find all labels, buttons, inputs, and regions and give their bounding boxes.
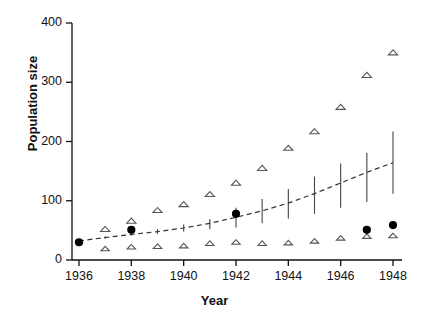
triangle-marker (389, 233, 397, 238)
triangle-marker (362, 72, 371, 77)
triangle-marker (258, 241, 266, 246)
triangle-marker (101, 226, 110, 231)
x-tick-marks (79, 260, 393, 266)
triangle-marker (153, 208, 162, 213)
x-tick-label: 1938 (101, 269, 161, 283)
census-point (75, 238, 83, 246)
triangle-marker (153, 244, 161, 249)
x-tick-label: 1944 (258, 269, 318, 283)
census-point (363, 226, 371, 234)
chart-figure: 0100200300400 19361938194019421944194619… (0, 0, 429, 322)
x-axis-title: Year (0, 293, 429, 308)
triangle-marker (310, 129, 319, 134)
axes (72, 23, 402, 260)
triangle-marker (310, 239, 318, 244)
x-tick-label: 1942 (206, 269, 266, 283)
triangle-marker (284, 145, 293, 150)
y-tick-marks (66, 23, 72, 260)
triangle-marker (179, 243, 187, 248)
triangle-marker (127, 244, 135, 249)
triangle-marker (336, 104, 345, 109)
x-tick-label: 1946 (311, 269, 371, 283)
error-bars (75, 131, 393, 241)
triangle-marker (206, 241, 214, 246)
y-tick-label: 0 (18, 252, 62, 266)
model-fit-line (79, 163, 393, 241)
triangle-marker (232, 240, 240, 245)
model-fit-polyline (79, 163, 393, 241)
triangle-marker (284, 240, 292, 245)
y-tick-label: 100 (18, 193, 62, 207)
triangle-marker (258, 165, 267, 170)
triangle-marker (101, 246, 109, 251)
triangle-marker (127, 218, 136, 223)
census-point (127, 226, 135, 234)
triangle-marker (388, 50, 397, 55)
census-point (389, 221, 397, 229)
x-tick-label: 1940 (154, 269, 214, 283)
triangle-marker (179, 202, 188, 207)
x-tick-label: 1936 (49, 269, 109, 283)
x-tick-label: 1948 (363, 269, 423, 283)
census-point (232, 210, 240, 218)
y-axis-title: Population size (25, 24, 40, 184)
census-markers (75, 210, 397, 247)
upper-bound-markers (101, 50, 398, 232)
triangle-marker (231, 180, 240, 185)
triangle-marker (336, 236, 344, 241)
lower-bound-markers (101, 233, 397, 251)
triangle-marker (363, 234, 371, 239)
triangle-marker (205, 192, 214, 197)
